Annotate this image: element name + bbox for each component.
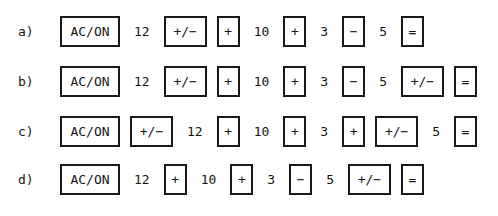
row-label: d) — [18, 172, 34, 187]
calculator-key[interactable]: + — [217, 66, 240, 97]
calculator-key[interactable]: + — [230, 164, 253, 195]
token-strip: AC/ON+/−12+10+3++/−5= — [55, 115, 482, 147]
calculator-key[interactable]: + — [283, 66, 306, 97]
operand-number: 12 — [132, 173, 152, 186]
operand-number: 3 — [318, 125, 330, 138]
operand-number: 12 — [132, 25, 152, 38]
operand-number: 3 — [318, 25, 330, 38]
operand-number: 3 — [318, 75, 330, 88]
calculator-key[interactable]: − — [289, 164, 312, 195]
calculator-key[interactable]: = — [401, 16, 424, 47]
calculator-key[interactable]: AC/ON — [60, 16, 120, 47]
keystroke-sequence-list: a)AC/ON12+/−+10+3−5=b)AC/ON12+/−+10+3−5+… — [0, 0, 498, 216]
keystroke-sequence-row: d)AC/ON12+10+3−5+/−= — [0, 154, 498, 204]
calculator-key[interactable]: + — [283, 16, 306, 47]
calculator-key[interactable]: +/− — [130, 116, 173, 147]
calculator-key[interactable]: − — [342, 16, 365, 47]
calculator-key[interactable]: AC/ON — [60, 164, 120, 195]
operand-number: 5 — [377, 25, 389, 38]
calculator-key[interactable]: − — [342, 66, 365, 97]
calculator-key[interactable]: +/− — [348, 164, 391, 195]
row-label: a) — [18, 24, 34, 39]
operand-number: 5 — [324, 173, 336, 186]
calculator-key[interactable]: AC/ON — [60, 116, 120, 147]
row-label: b) — [18, 74, 34, 89]
token-strip: AC/ON12+/−+10+3−5+/−= — [55, 65, 482, 97]
calculator-key[interactable]: + — [217, 16, 240, 47]
operand-number: 12 — [185, 125, 205, 138]
token-strip: AC/ON12+/−+10+3−5= — [55, 15, 429, 47]
operand-number: 5 — [377, 75, 389, 88]
operand-number: 10 — [199, 173, 219, 186]
calculator-key[interactable]: = — [401, 164, 424, 195]
operand-number: 10 — [252, 25, 272, 38]
row-label: c) — [18, 124, 34, 139]
operand-number: 12 — [132, 75, 152, 88]
calculator-key[interactable]: +/− — [164, 66, 207, 97]
calculator-key[interactable]: + — [164, 164, 187, 195]
calculator-key[interactable]: AC/ON — [60, 66, 120, 97]
keystroke-sequence-row: a)AC/ON12+/−+10+3−5= — [0, 6, 498, 56]
calculator-key[interactable]: = — [454, 66, 477, 97]
calculator-key[interactable]: +/− — [375, 116, 418, 147]
calculator-key[interactable]: +/− — [401, 66, 444, 97]
operand-number: 10 — [252, 125, 272, 138]
operand-number: 5 — [430, 125, 442, 138]
keystroke-sequence-row: c)AC/ON+/−12+10+3++/−5= — [0, 106, 498, 156]
keystroke-sequence-row: b)AC/ON12+/−+10+3−5+/−= — [0, 56, 498, 106]
calculator-key[interactable]: + — [217, 116, 240, 147]
operand-number: 10 — [252, 75, 272, 88]
calculator-key[interactable]: + — [342, 116, 365, 147]
token-strip: AC/ON12+10+3−5+/−= — [55, 163, 429, 195]
calculator-key[interactable]: + — [283, 116, 306, 147]
calculator-key[interactable]: +/− — [164, 16, 207, 47]
calculator-key[interactable]: = — [454, 116, 477, 147]
operand-number: 3 — [265, 173, 277, 186]
